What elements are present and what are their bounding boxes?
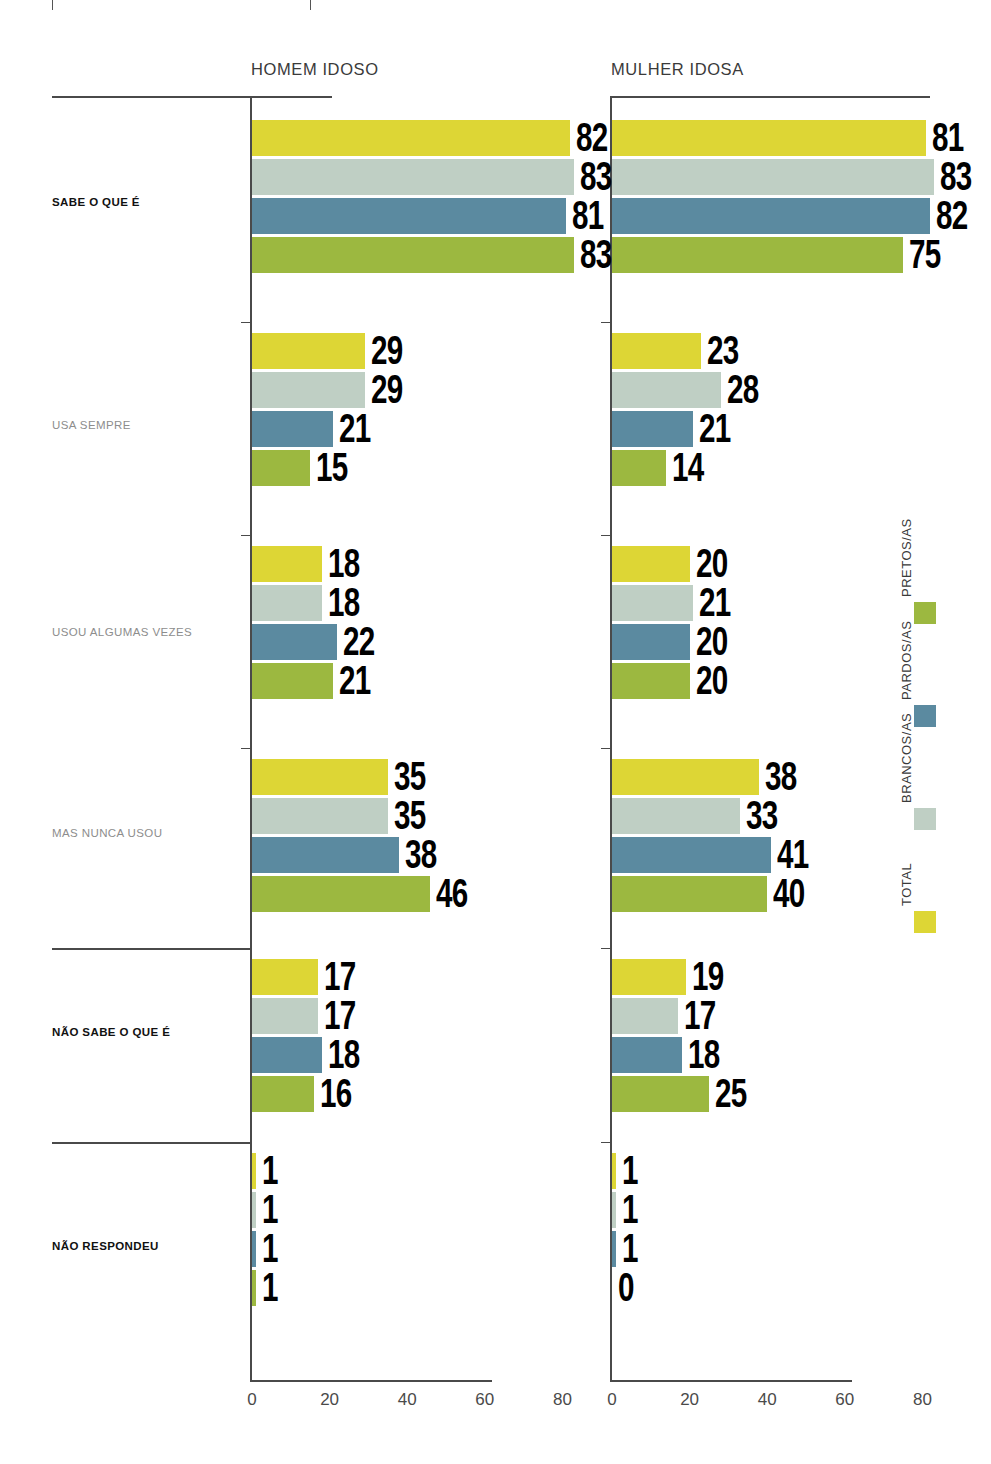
bar-value-label: 19 [692,958,723,994]
panel-top-rule-homem [52,96,332,98]
category-label-usa-sempre: USA SEMPRE [52,419,131,431]
bar-mulher-idosa-pardos-as-3 [612,837,771,873]
legend-label-total: TOTAL [899,863,914,906]
bar-mulher-idosa-brancos-as-4 [612,998,678,1034]
bar-value-label: 81 [932,119,963,155]
bar-value-label: 1 [262,1230,278,1266]
bar-value-label: 82 [936,197,967,233]
bar-value-label: 20 [696,662,727,698]
bar-value-label: 14 [672,449,703,485]
y-tick-mulher-5 [601,1142,610,1143]
bar-value-label: 21 [699,584,730,620]
bar-mulher-idosa-pretos-as-4 [612,1076,709,1112]
x-tick-label-homem-40: 40 [398,1390,417,1410]
bar-homem-idoso-pardos-as-3 [252,837,399,873]
bar-homem-idoso-pretos-as-1 [252,450,310,486]
x-tick-label-homem-80: 80 [553,1390,572,1410]
bar-homem-idoso-brancos-as-2 [252,585,322,621]
bar-value-label: 28 [727,371,758,407]
bar-mulher-idosa-pardos-as-2 [612,624,690,660]
bar-mulher-idosa-pardos-as-4 [612,1037,682,1073]
bar-mulher-idosa-brancos-as-2 [612,585,693,621]
legend-swatch-pretos [914,602,936,624]
bar-mulher-idosa-total-2 [612,546,690,582]
legend-swatch-pardos [914,705,936,727]
category-label-usou-algumas-vezes: USOU ALGUMAS VEZES [52,626,192,638]
y-tick-homem-2 [241,535,250,536]
panel-title-homem-idoso: HOMEM IDOSO [251,60,379,79]
bar-value-label: 17 [324,997,355,1033]
bar-value-label: 1 [262,1191,278,1227]
bar-homem-idoso-pretos-as-4 [252,1076,314,1112]
bar-mulher-idosa-total-1 [612,333,701,369]
bar-value-label: 38 [765,758,796,794]
y-tick-mulher-1 [601,322,610,323]
bar-homem-idoso-total-5 [252,1153,256,1189]
x-tick-label-mulher-40: 40 [758,1390,777,1410]
legend-swatch-total [914,911,936,933]
bar-value-label: 18 [328,1036,359,1072]
bar-value-label: 16 [320,1075,351,1111]
bar-value-label: 40 [773,875,804,911]
bar-value-label: 82 [576,119,607,155]
y-tick-homem-3 [241,748,250,749]
bar-value-label: 18 [328,545,359,581]
bar-homem-idoso-pardos-as-4 [252,1037,322,1073]
bar-value-label: 20 [696,623,727,659]
bar-value-label: 29 [371,371,402,407]
bar-mulher-idosa-pardos-as-5 [612,1231,616,1267]
bar-value-label: 17 [324,958,355,994]
bar-homem-idoso-total-0 [252,120,570,156]
bar-homem-idoso-total-3 [252,759,388,795]
bar-value-label: 21 [339,410,370,446]
bar-value-label: 1 [262,1269,278,1305]
bar-homem-idoso-pardos-as-1 [252,411,333,447]
bar-value-label: 75 [909,236,940,272]
x-tick-label-mulher-80: 80 [913,1390,932,1410]
legend-label-pardos: PARDOS/AS [899,621,914,700]
bar-homem-idoso-pardos-as-2 [252,624,337,660]
bar-homem-idoso-total-2 [252,546,322,582]
bar-homem-idoso-pretos-as-2 [252,663,333,699]
legend: PRETOS/ASPARDOS/ASBRANCOS/ASTOTAL [900,540,970,940]
x-tick-label-mulher-20: 20 [680,1390,699,1410]
bar-mulher-idosa-brancos-as-3 [612,798,740,834]
bar-mulher-idosa-pardos-as-1 [612,411,693,447]
bar-value-label: 17 [684,997,715,1033]
bar-value-label: 33 [746,797,777,833]
bar-homem-idoso-brancos-as-3 [252,798,388,834]
bar-value-label: 25 [715,1075,746,1111]
bar-mulher-idosa-brancos-as-0 [612,159,934,195]
bar-homem-idoso-brancos-as-0 [252,159,574,195]
bar-value-label: 41 [777,836,808,872]
bar-mulher-idosa-pretos-as-2 [612,663,690,699]
x-axis-line-homem [250,1380,492,1382]
x-tick-label-homem-0: 0 [247,1390,256,1410]
bar-value-label: 20 [696,545,727,581]
bar-mulher-idosa-pretos-as-0 [612,237,903,273]
bar-value-label: 22 [343,623,374,659]
x-tick-label-homem-20: 20 [320,1390,339,1410]
bar-mulher-idosa-total-0 [612,120,926,156]
bar-value-label: 83 [580,158,611,194]
bar-homem-idoso-brancos-as-4 [252,998,318,1034]
bar-value-label: 21 [339,662,370,698]
bar-homem-idoso-pretos-as-5 [252,1270,256,1306]
bar-homem-idoso-total-4 [252,959,318,995]
bar-value-label: 83 [580,236,611,272]
bar-value-label: 18 [688,1036,719,1072]
bar-value-label: 35 [394,758,425,794]
bar-value-label: 1 [622,1191,638,1227]
x-tick-label-homem-60: 60 [475,1390,494,1410]
bar-homem-idoso-total-1 [252,333,365,369]
bar-mulher-idosa-pretos-as-1 [612,450,666,486]
y-tick-homem-4 [241,948,250,949]
bar-mulher-idosa-total-3 [612,759,759,795]
bar-mulher-idosa-pardos-as-0 [612,198,930,234]
bar-homem-idoso-pretos-as-0 [252,237,574,273]
bar-value-label: 46 [436,875,467,911]
bar-mulher-idosa-brancos-as-5 [612,1192,616,1228]
bar-value-label: 15 [316,449,347,485]
legend-label-brancos: BRANCOS/AS [899,713,914,803]
bar-homem-idoso-pardos-as-0 [252,198,566,234]
